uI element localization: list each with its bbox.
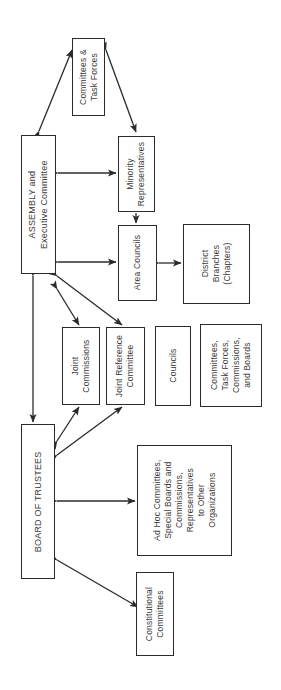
connector-assembly-joint-commissions	[57, 289, 79, 325]
connector-assembly-joint-reference-committee	[57, 276, 122, 325]
node-constitutional-committees[interactable]: ConstitutionalCommittees	[136, 572, 174, 656]
node-label: Councils	[167, 349, 178, 383]
connector-board-constitutional-committees	[57, 560, 138, 607]
node-district-branches-chapters[interactable]: DistrictBranches(Chapters)	[183, 224, 250, 304]
connector-board-joint-commissions	[57, 407, 79, 441]
node-assembly-executive-committee[interactable]: ASSEMBLY andExecutive Committee	[21, 135, 56, 274]
connector-committees-task-forces-minority	[106, 50, 136, 132]
node-label: Committees &Task Forces	[77, 49, 99, 105]
node-label: Committees,Task Forces,Commissions,and B…	[209, 338, 253, 394]
node-label: Joint ReferenceCommittee	[114, 335, 136, 398]
node-joint-reference-committee[interactable]: Joint ReferenceCommittee	[106, 327, 145, 405]
node-label: MinorityRepresentatives	[125, 142, 147, 206]
node-joint-commissions[interactable]: JointCommissions	[62, 327, 100, 405]
node-label: Ad Hoc Committees,Special Boards andComm…	[151, 460, 217, 542]
node-label: Area Councils	[132, 235, 143, 291]
node-label: JointCommissions	[70, 339, 92, 392]
connector-assembly-committees-task-forces	[39, 50, 72, 131]
node-ad-hoc-committees-special-boards[interactable]: Ad Hoc Committees,Special Boards andComm…	[137, 445, 232, 556]
node-committees-task-forces-commissions-and-boards[interactable]: Committees,Task Forces,Commissions,and B…	[200, 324, 262, 407]
node-label: ConstitutionalCommittees	[144, 587, 166, 641]
connector-board-joint-reference-committee	[57, 407, 122, 455]
org-chart-canvas: Committees &Task Forces ASSEMBLY andExec…	[0, 0, 281, 690]
node-board-of-trustees[interactable]: BOARD OF TRUSTEES	[21, 424, 55, 579]
node-area-councils[interactable]: Area Councils	[118, 225, 157, 301]
node-councils[interactable]: Councils	[155, 326, 191, 406]
node-label: ASSEMBLY andExecutive Committee	[27, 160, 50, 249]
node-label: DistrictBranches(Chapters)	[200, 243, 233, 285]
node-minority-representatives[interactable]: MinorityRepresentatives	[118, 136, 155, 212]
node-committees-task-forces[interactable]: Committees &Task Forces	[72, 38, 105, 116]
node-label: BOARD OF TRUSTEES	[32, 451, 44, 552]
